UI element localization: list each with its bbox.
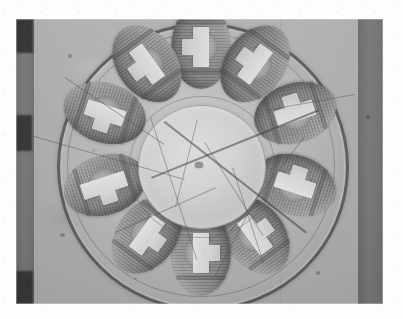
coil-band bbox=[176, 20, 226, 25]
coil-band bbox=[176, 275, 226, 280]
coil-tape-secondary bbox=[182, 39, 196, 56]
coil-assembly bbox=[55, 19, 347, 304]
left-post bbox=[16, 19, 34, 304]
hub-bolt bbox=[195, 162, 203, 168]
page: radial coil assembly (stator / armature)… bbox=[0, 0, 403, 319]
left-post-shadow-mid bbox=[16, 115, 32, 151]
left-post-shadow-top bbox=[16, 19, 33, 53]
left-post-shadow-bottom bbox=[16, 271, 33, 304]
coil-tape-secondary bbox=[206, 245, 220, 262]
photograph: radial coil assembly (stator / armature)… bbox=[16, 19, 383, 304]
right-post bbox=[358, 19, 383, 304]
